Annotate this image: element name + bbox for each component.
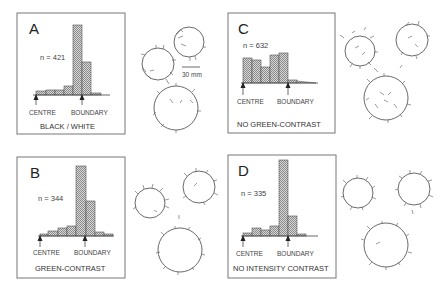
bar xyxy=(261,230,270,236)
bar xyxy=(73,25,82,95)
arena-circle xyxy=(174,27,204,57)
bar xyxy=(76,166,86,236)
bar xyxy=(58,228,67,236)
arena-circle xyxy=(364,223,408,267)
condition-label: NO GREEN-CONTRAST xyxy=(237,120,321,129)
condition-label: GREEN-CONTRAST xyxy=(35,264,106,273)
panel-b: B n = 344 CENTRE BOUNDARY GREEN-CONTRAST xyxy=(17,157,218,278)
arena-circle xyxy=(345,36,375,66)
panel-b-trajectory-circles xyxy=(133,168,218,275)
centre-label: CENTRE xyxy=(29,109,56,116)
bar xyxy=(279,53,288,83)
bar xyxy=(243,233,252,236)
scale-bar-label: 30 mm xyxy=(182,71,202,78)
bar xyxy=(64,86,73,95)
panel-d-trajectory-circles xyxy=(341,170,433,270)
panel-c-trajectory-circles xyxy=(340,21,430,123)
boundary-label: BOUNDARY xyxy=(277,250,314,257)
bar xyxy=(243,58,252,83)
bar xyxy=(55,90,64,95)
centre-label: CENTRE xyxy=(33,249,60,256)
bar xyxy=(86,201,95,236)
boundary-label: BOUNDARY xyxy=(74,249,111,256)
bar xyxy=(252,228,261,236)
panel-d-letter: D xyxy=(238,162,249,179)
panel-a-trajectory-circles: 30 mm xyxy=(141,27,206,133)
panel-b-n-count: n = 344 xyxy=(38,194,63,203)
arena-circle xyxy=(398,173,430,205)
arena-circle xyxy=(158,228,202,272)
bar xyxy=(48,231,58,236)
arena-circle xyxy=(135,188,165,218)
bar xyxy=(261,67,270,83)
arena-circle xyxy=(154,86,198,130)
bar xyxy=(82,62,91,95)
bar xyxy=(270,226,279,236)
bar xyxy=(252,60,261,83)
panel-c: C n = 632 CENTRE BOUNDARY NO GREEN-CONTR… xyxy=(228,13,430,133)
arena-circle xyxy=(343,178,373,208)
bar xyxy=(95,232,104,236)
centre-label: CENTRE xyxy=(236,250,263,257)
centre-label: CENTRE xyxy=(237,98,264,105)
bar xyxy=(270,55,279,83)
panel-d: D n = 335 CENTRE BOUNDARY NO INTENSITY C… xyxy=(228,155,433,278)
bar xyxy=(288,216,297,236)
panel-a-n-count: n = 421 xyxy=(40,53,65,62)
panel-a: A n = 421 CENTRE BOUNDARY BLACK / WHITE xyxy=(17,13,206,134)
panel-b-letter: B xyxy=(30,164,40,181)
panel-c-n-count: n = 632 xyxy=(243,41,268,50)
condition-label: BLACK / WHITE xyxy=(40,122,95,131)
bar xyxy=(36,91,46,95)
bar xyxy=(46,90,55,95)
bar xyxy=(67,226,76,236)
bar xyxy=(288,80,297,83)
boundary-label: BOUNDARY xyxy=(71,109,108,116)
boundary-label: BOUNDARY xyxy=(277,98,314,105)
condition-label: NO INTENSITY CONTRAST xyxy=(233,264,329,273)
figure: A n = 421 CENTRE BOUNDARY BLACK / WHITE xyxy=(0,0,445,290)
arena-circle xyxy=(396,24,428,56)
bar xyxy=(279,160,288,236)
panel-d-n-count: n = 335 xyxy=(241,189,266,198)
panel-a-letter: A xyxy=(29,20,39,37)
arena-circle xyxy=(183,171,215,203)
arena-circle xyxy=(364,76,408,120)
panel-c-letter: C xyxy=(238,20,249,37)
arena-circle xyxy=(142,48,174,80)
